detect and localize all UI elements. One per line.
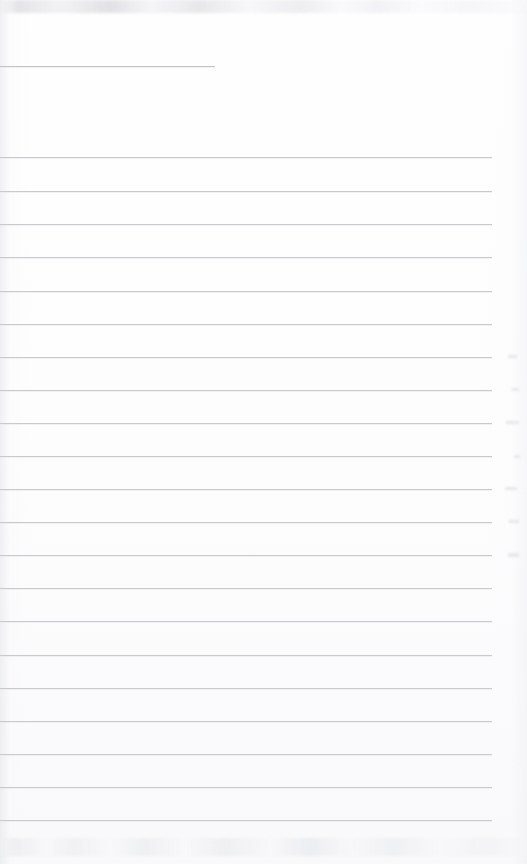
rule-line-22 — [0, 820, 492, 821]
margin-bleed-mark-7 — [508, 553, 519, 557]
rule-line-5 — [0, 257, 492, 258]
rule-line-3 — [0, 191, 492, 192]
bottom-bleedthrough-text-ghost — [0, 838, 527, 856]
rule-line-9 — [0, 390, 492, 391]
rule-line-2 — [0, 157, 492, 158]
rule-line-17 — [0, 655, 492, 656]
paper-tone-overlay — [0, 0, 527, 864]
scanned-page — [0, 0, 527, 864]
margin-bleed-mark-5 — [505, 487, 517, 490]
margin-bleed-mark-3 — [506, 421, 519, 424]
rule-line-21 — [0, 787, 492, 788]
rule-line-19 — [0, 721, 492, 722]
rule-line-12 — [0, 489, 492, 490]
rule-line-8 — [0, 357, 492, 358]
rule-line-16 — [0, 621, 492, 622]
rule-line-10 — [0, 423, 492, 424]
rule-line-7 — [0, 324, 492, 325]
rule-line-14 — [0, 555, 492, 556]
rule-line-11 — [0, 456, 492, 457]
rule-line-18 — [0, 688, 492, 689]
top-scan-smudge — [0, 0, 527, 13]
margin-bleed-mark-1 — [508, 355, 517, 358]
rule-line-15 — [0, 588, 492, 589]
margin-bleed-mark-2 — [512, 388, 519, 391]
rule-line-13 — [0, 522, 492, 523]
rule-line-6 — [0, 291, 492, 292]
rule-line-1 — [0, 66, 215, 67]
margin-bleed-mark-4 — [514, 455, 520, 458]
rule-line-4 — [0, 224, 492, 225]
rule-line-20 — [0, 754, 492, 755]
margin-bleed-mark-6 — [509, 520, 519, 523]
